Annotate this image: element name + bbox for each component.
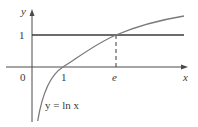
x-axis-label: x [182, 71, 188, 83]
y-axis-arrow-icon [30, 9, 35, 16]
function-label: y = ln x [45, 99, 80, 111]
y-tick-1-label: 1 [19, 29, 25, 41]
origin-label: 0 [20, 71, 26, 83]
ln-graph: y x 0 1 1 e y = ln x [0, 0, 198, 127]
x-tick-1-label: 1 [61, 71, 67, 83]
x-axis-arrow-icon [181, 65, 188, 70]
y-axis-label: y [20, 5, 26, 17]
x-tick-e-label: e [112, 71, 117, 83]
